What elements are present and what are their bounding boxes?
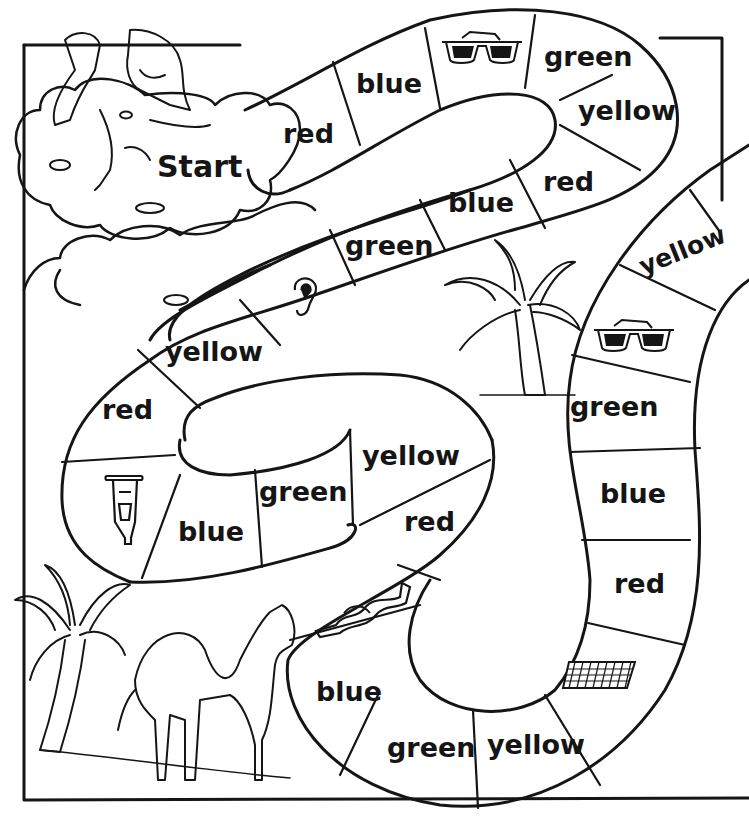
space-10-label: yellow <box>165 338 263 365</box>
space-8-label: green <box>345 232 434 259</box>
space-18-label: blue <box>316 678 382 705</box>
space-15-label: yellow <box>362 442 460 469</box>
palm-tree-bottom-left <box>15 565 130 752</box>
space-16-label: red <box>404 508 455 535</box>
space-4-label: green <box>544 43 633 70</box>
cloud-lower <box>24 202 315 290</box>
space-22-label: red <box>614 570 665 597</box>
space-7-label: blue <box>448 189 514 216</box>
start-label: Start <box>157 152 242 182</box>
space-1-label: red <box>283 120 334 147</box>
ear-icon <box>287 272 323 322</box>
palm-tree-top <box>445 240 580 395</box>
mat-icon <box>561 660 637 690</box>
sunglasses-icon <box>440 30 524 70</box>
space-23-label: blue <box>600 480 666 507</box>
space-5-label: yellow <box>578 97 676 124</box>
space-19-label: green <box>387 734 476 761</box>
space-14-label: green <box>259 478 348 505</box>
space-13-label: blue <box>178 518 244 545</box>
scroll-icon <box>314 573 414 639</box>
crutch-icon <box>103 472 147 548</box>
space-20-label: yellow <box>487 731 585 758</box>
camel <box>118 605 294 780</box>
space-2-label: blue <box>356 70 422 97</box>
space-24-label: green <box>570 393 659 420</box>
space-6-label: red <box>543 168 594 195</box>
space-11-label: red <box>102 396 153 423</box>
sunglasses-icon <box>592 318 676 358</box>
